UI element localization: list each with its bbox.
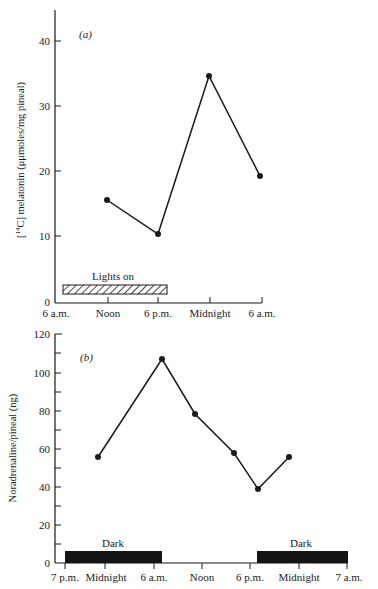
chart-b-ytick-0: 0 (45, 557, 51, 569)
chart-b-xtick-noon: Noon (190, 571, 215, 583)
chart-a-ytick-20: 20 (39, 165, 51, 177)
chart-b-point (192, 411, 198, 417)
dark-label-2: Dark (290, 537, 312, 549)
chart-b-xtick-6pm: 6 p.m. (236, 571, 264, 583)
chart-a-xtick-6am-2: 6 a.m. (248, 307, 275, 319)
chart-b-point (255, 486, 261, 492)
chart-b-ytick-40: 40 (39, 481, 51, 493)
chart-a-ytick-30: 30 (39, 100, 51, 112)
chart-a-xtick-midnight: Midnight (190, 307, 231, 319)
dark-bar-2 (257, 551, 348, 563)
chart-a-xtick-6am: 6 a.m. (42, 307, 69, 319)
chart-b-ytick-60: 60 (39, 443, 51, 455)
chart-b-x-ticks (65, 563, 347, 569)
chart-b-ytick-100: 100 (34, 367, 51, 379)
chart-a-series-line (107, 76, 260, 234)
chart-a-point (104, 197, 110, 203)
chart-a-y-label: [14C] melatonin (μμmoles/mg pineal) (14, 81, 27, 238)
chart-a-ytick-40: 40 (39, 35, 51, 47)
chart-b-panel-label: (b) (80, 351, 93, 364)
chart-a-ytick-10: 10 (39, 230, 51, 242)
chart-b-point (95, 454, 101, 460)
chart-a-panel-label: (a) (79, 28, 92, 41)
chart-a: 40 30 20 10 0 6 a.m. Noon 6 p.m. Midnigh… (14, 10, 276, 319)
chart-b-y-label: Noradrenaline/pineal (ng) (7, 393, 19, 502)
chart-a-point (155, 231, 161, 237)
dark-bar-1 (65, 551, 162, 563)
chart-b-ytick-20: 20 (39, 519, 51, 531)
chart-a-point (206, 73, 212, 79)
dark-label-1: Dark (102, 537, 124, 549)
chart-a-point (257, 173, 263, 179)
chart-b-y-ticks (55, 353, 61, 544)
chart-b: 120 100 80 60 40 20 0 7 p.m. Midnight 6 … (7, 328, 363, 583)
chart-b-point (286, 454, 292, 460)
lights-on-label: Lights on (92, 270, 134, 282)
chart-b-xtick-midnight: Midnight (86, 571, 127, 583)
chart-a-xtick-6pm: 6 p.m. (144, 307, 172, 319)
lights-on-bar (63, 285, 167, 294)
chart-b-xtick-7pm: 7 p.m. (51, 571, 79, 583)
chart-b-series-line (98, 359, 289, 489)
chart-b-xtick-midnight-2: Midnight (279, 571, 320, 583)
chart-b-xtick-7am: 7 a.m. (335, 571, 362, 583)
chart-a-xtick-noon: Noon (96, 307, 121, 319)
chart-b-point (159, 356, 165, 362)
chart-b-point (231, 450, 237, 456)
chart-a-x-ticks (108, 297, 262, 303)
figure: 40 30 20 10 0 6 a.m. Noon 6 p.m. Midnigh… (0, 0, 378, 589)
chart-b-xtick-6am: 6 a.m. (140, 571, 167, 583)
chart-a-y-ticks (55, 41, 61, 236)
chart-b-ytick-120: 120 (34, 328, 51, 340)
chart-b-ytick-80: 80 (39, 405, 51, 417)
